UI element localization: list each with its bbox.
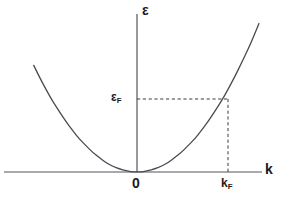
fermi-energy-subscript: F (117, 96, 122, 105)
dispersion-curve (34, 23, 259, 171)
fermi-energy-label: εF (111, 91, 122, 103)
origin-label: 0 (132, 176, 140, 190)
plot-canvas (0, 0, 281, 200)
fermi-wavevector-label: kF (221, 177, 233, 189)
y-axis-label-epsilon: ε (142, 3, 149, 17)
fermi-wavevector-subscript: F (228, 182, 233, 191)
x-axis-label-k: k (265, 162, 273, 176)
dispersion-figure: ε k εF kF 0 (0, 0, 281, 200)
fermi-energy-base: ε (111, 90, 117, 104)
fermi-wavevector-base: k (221, 176, 228, 190)
